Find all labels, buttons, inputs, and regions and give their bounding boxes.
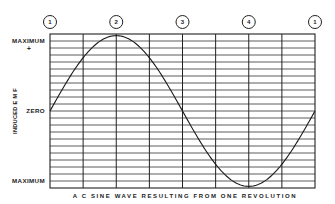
x-axis-caption: A C SINE WAVE RESULTING FROM ONE REVOLUT… xyxy=(73,193,297,199)
revolution-position-markers: 12341 xyxy=(44,16,322,29)
sine-wave-chart: 12341 MAXIMUM + ZERO MAXIMUM INDUCED E M… xyxy=(0,0,335,204)
position-marker-3: 3 xyxy=(176,16,189,29)
y-axis-label: INDUCED E M F xyxy=(12,88,18,134)
position-marker-4: 4 xyxy=(242,16,255,29)
position-marker-5: 1 xyxy=(309,16,322,29)
y-tick-maximum-positive: MAXIMUM xyxy=(12,37,45,44)
position-marker-2: 2 xyxy=(110,16,123,29)
y-tick-zero: ZERO xyxy=(26,107,45,114)
position-marker-1: 1 xyxy=(44,16,57,29)
y-tick-maximum-negative: MAXIMUM xyxy=(12,177,45,184)
y-tick-plus-sign: + xyxy=(27,45,31,52)
